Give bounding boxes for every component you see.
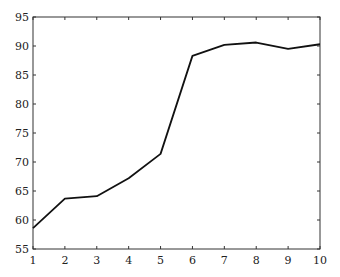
y-tick-label: 90	[15, 40, 29, 53]
y-tick-label: 80	[15, 98, 29, 111]
x-tick-label: 2	[61, 254, 68, 267]
x-tick-label: 1	[30, 254, 37, 267]
y-tick-label: 70	[15, 156, 29, 169]
x-tick-label: 10	[313, 254, 327, 267]
y-tick-label: 60	[15, 214, 29, 227]
plot-axes	[33, 17, 320, 249]
x-axis-ticks: 12345678910	[30, 17, 328, 267]
x-tick-label: 7	[221, 254, 228, 267]
plot-frame	[33, 17, 320, 249]
y-tick-label: 75	[15, 127, 29, 140]
x-tick-label: 8	[253, 254, 260, 267]
x-tick-label: 5	[157, 254, 164, 267]
line-chart: 556065707580859095 12345678910	[0, 0, 340, 277]
series-line	[33, 43, 320, 229]
y-tick-label: 85	[15, 69, 29, 82]
data-series	[33, 43, 320, 229]
y-tick-label: 95	[15, 11, 29, 24]
y-tick-label: 65	[15, 185, 29, 198]
x-tick-label: 3	[93, 254, 100, 267]
x-tick-label: 4	[125, 254, 132, 267]
x-tick-label: 6	[189, 254, 196, 267]
x-tick-label: 9	[285, 254, 292, 267]
y-tick-label: 55	[15, 243, 29, 256]
